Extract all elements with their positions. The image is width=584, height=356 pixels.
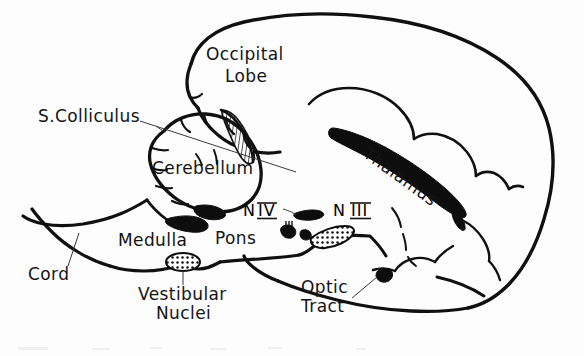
label-cord: Cord — [28, 264, 69, 284]
label-vestibular-nuclei-line1: Vestibular — [138, 284, 227, 304]
figure-canvas: Occipital Lobe S.Colliculus Cerebellum T… — [0, 0, 584, 356]
label-nerve-three-numeral: III — [351, 201, 368, 220]
label-pons: Pons — [215, 228, 256, 248]
vestibular-nuclei-structure — [166, 253, 200, 271]
label-cerebellum: Cerebellum — [152, 158, 253, 178]
label-medulla: Medulla — [118, 230, 187, 250]
label-occipital-lobe-line2: Lobe — [225, 66, 267, 86]
optic-tract-marker — [376, 269, 393, 283]
label-nerve-four-prefix: N — [243, 201, 256, 220]
label-nerve-three: N III — [333, 201, 371, 220]
canvas-background — [0, 0, 584, 356]
label-s-colliculus: S.Colliculus — [38, 106, 140, 126]
label-optic-tract-line2: Tract — [300, 296, 344, 316]
label-nerve-four: N IV — [243, 201, 277, 220]
label-nerve-three-prefix: N — [333, 201, 346, 220]
brain-sagittal-diagram: Occipital Lobe S.Colliculus Cerebellum T… — [0, 0, 584, 356]
label-optic-tract-line1: Optic — [301, 277, 348, 297]
label-occipital-lobe-line1: Occipital — [206, 44, 284, 64]
label-vestibular-nuclei-line2: Nuclei — [156, 303, 211, 323]
label-nerve-four-numeral: IV — [258, 201, 276, 220]
